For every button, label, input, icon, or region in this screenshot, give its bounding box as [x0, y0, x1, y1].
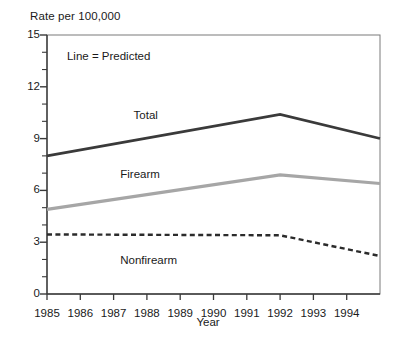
chart-figure: Rate per 100,000 03691215 19851986198719… — [0, 0, 398, 341]
series-line-total — [47, 114, 380, 155]
series-line-nonfirearm — [47, 234, 380, 256]
axes — [40, 35, 380, 300]
x-axis-title: Year — [0, 316, 398, 328]
data-series — [47, 114, 380, 256]
x-axis-title-text: Year — [196, 316, 219, 328]
series-line-firearm — [47, 175, 380, 210]
plot-area — [0, 0, 398, 341]
